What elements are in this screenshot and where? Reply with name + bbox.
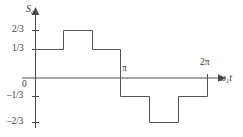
y-tick-label-neg-1-3: –1/3 xyxy=(7,91,23,101)
x-axis-title-subscript: 1 xyxy=(226,77,229,84)
y-tick-label-neg-2-3: –2/3 xyxy=(7,117,23,127)
x-axis-title: ω1t xyxy=(219,73,232,83)
y-tick-label-zero: 0 xyxy=(22,80,27,90)
y-tick-label-1-3: 1/3 xyxy=(12,44,24,54)
waveform-trace xyxy=(36,31,208,123)
x-axis-title-time: t xyxy=(229,72,232,83)
waveform-figure: 2/3 1/3 0 –1/3 –2/3 π 2π Sa ω1t xyxy=(0,0,243,137)
x-tick-label-pi: π xyxy=(122,64,127,74)
y-axis-title-subscript: a xyxy=(31,8,34,15)
x-tick-label-2pi: 2π xyxy=(200,58,210,68)
y-axis-title: Sa xyxy=(26,4,34,14)
y-tick-label-2-3: 2/3 xyxy=(12,25,24,35)
x-axis-title-omega: ω xyxy=(219,72,226,83)
